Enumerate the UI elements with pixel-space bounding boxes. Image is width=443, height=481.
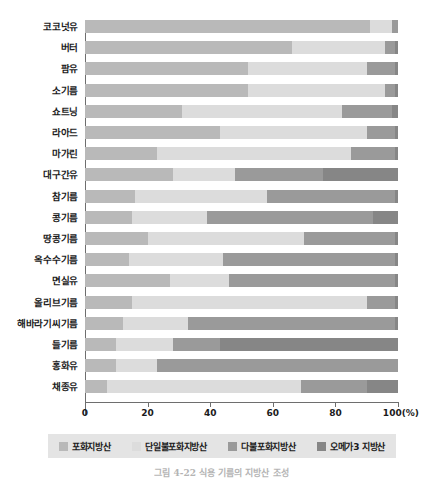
bar-segment-poly xyxy=(367,296,395,309)
bar-segment-sat xyxy=(85,147,157,160)
bar-segment-poly xyxy=(173,338,220,351)
bar-row xyxy=(85,380,398,393)
bar-row xyxy=(85,232,398,245)
legend-item: 오메가3 지방산 xyxy=(317,440,385,453)
bar-row xyxy=(85,62,398,75)
bar-segment-omega xyxy=(395,84,398,97)
bar-segment-sat xyxy=(85,274,170,287)
stacked-bar-chart: 코코넛유버터팜유소기름쇼트닝라아드마가린대구간유참기름콩기름땅콩기름옥수수기름면… xyxy=(0,0,443,481)
bar-category-label: 올리브기름 xyxy=(0,296,78,309)
bar-segment-mono xyxy=(132,296,367,309)
x-tick-mark xyxy=(398,403,399,407)
x-tick-mark xyxy=(210,403,211,407)
x-tick-label: 40 xyxy=(204,408,217,418)
bar-segment-mono xyxy=(248,84,386,97)
x-tick-label: 0 xyxy=(82,408,88,418)
bar-category-label: 땅콩기름 xyxy=(0,232,78,245)
bar-category-label: 마가린 xyxy=(0,147,78,160)
x-tick-mark xyxy=(335,403,336,407)
legend-swatch-icon xyxy=(228,442,237,451)
plot-area: 코코넛유버터팜유소기름쇼트닝라아드마가린대구간유참기름콩기름땅콩기름옥수수기름면… xyxy=(0,12,443,402)
bar-row xyxy=(85,20,398,33)
bar-segment-sat xyxy=(85,20,370,33)
bar-segment-sat xyxy=(85,232,148,245)
bar-category-label: 홍화유 xyxy=(0,359,78,372)
bar-segment-sat xyxy=(85,380,107,393)
bar-segment-sat xyxy=(85,211,132,224)
bar-row xyxy=(85,41,398,54)
x-axis-line xyxy=(85,402,399,403)
bar-segment-poly xyxy=(385,84,394,97)
bar-segment-mono xyxy=(129,253,223,266)
bar-segment-mono xyxy=(132,211,207,224)
bar-category-label: 코코넛유 xyxy=(0,20,78,33)
bar-segment-sat xyxy=(85,168,173,181)
bar-segment-mono xyxy=(173,168,236,181)
chart-legend: 포화지방산 단일불포화지방산 다불포화지방산 오메가3 지방산 xyxy=(48,434,396,458)
bar-segment-mono xyxy=(220,126,367,139)
bar-category-label: 면실유 xyxy=(0,274,78,287)
bar-category-label: 해바라기씨기름 xyxy=(0,317,78,330)
bar-category-label: 라아드 xyxy=(0,126,78,139)
bar-segment-poly xyxy=(157,359,398,372)
x-tick-mark xyxy=(273,403,274,407)
legend-item-label: 오메가3 지방산 xyxy=(330,440,385,453)
bar-segment-poly xyxy=(367,126,395,139)
bar-row xyxy=(85,211,398,224)
x-tick-mark xyxy=(85,403,86,407)
bar-segment-omega xyxy=(395,41,398,54)
bar-segment-sat xyxy=(85,359,116,372)
bar-segment-omega xyxy=(220,338,398,351)
bar-segment-sat xyxy=(85,126,220,139)
bar-segment-sat xyxy=(85,317,123,330)
bar-row xyxy=(85,105,398,118)
bar-segment-omega xyxy=(367,380,398,393)
bar-row xyxy=(85,338,398,351)
legend-item-label: 포화지방산 xyxy=(72,440,111,453)
bar-category-label: 팜유 xyxy=(0,62,78,75)
bar-segment-sat xyxy=(85,105,182,118)
bar-row xyxy=(85,84,398,97)
bar-segment-sat xyxy=(85,190,135,203)
bar-segment-sat xyxy=(85,253,129,266)
x-tick-label: 60 xyxy=(267,408,280,418)
bar-category-label: 소기름 xyxy=(0,84,78,97)
bar-category-label: 참기름 xyxy=(0,190,78,203)
bar-segment-omega xyxy=(392,105,398,118)
bar-segment-poly xyxy=(304,232,395,245)
bar-category-label: 버터 xyxy=(0,41,78,54)
bar-segment-mono xyxy=(135,190,266,203)
bar-row xyxy=(85,126,398,139)
bar-category-label: 쇼트닝 xyxy=(0,105,78,118)
bar-segment-poly xyxy=(367,62,395,75)
bar-row xyxy=(85,168,398,181)
bar-segment-mono xyxy=(292,41,386,54)
bar-segment-mono xyxy=(170,274,229,287)
bar-row xyxy=(85,190,398,203)
bar-segment-poly xyxy=(229,274,395,287)
bar-segment-mono xyxy=(123,317,189,330)
bar-segment-mono xyxy=(107,380,301,393)
bar-segment-poly xyxy=(223,253,395,266)
bar-segment-omega xyxy=(395,147,398,160)
bar-row xyxy=(85,296,398,309)
bar-segment-sat xyxy=(85,338,116,351)
figure-caption: 그림 4-22 식용 기름의 지방산 조성 xyxy=(0,466,443,481)
bar-segment-sat xyxy=(85,84,248,97)
bar-segment-mono xyxy=(116,359,157,372)
bar-segment-poly xyxy=(301,380,367,393)
x-tick-mark xyxy=(148,403,149,407)
bar-segment-sat xyxy=(85,62,248,75)
bar-segment-omega xyxy=(395,62,398,75)
bar-segment-poly xyxy=(392,20,398,33)
bar-row xyxy=(85,253,398,266)
bar-segment-mono xyxy=(248,62,367,75)
bar-segment-mono xyxy=(182,105,342,118)
x-tick-label: 100(%) xyxy=(383,408,419,418)
bar-segment-omega xyxy=(395,126,398,139)
bar-segment-poly xyxy=(267,190,395,203)
bar-row xyxy=(85,274,398,287)
bar-category-label: 들기름 xyxy=(0,338,78,351)
bar-segment-mono xyxy=(116,338,172,351)
legend-swatch-icon xyxy=(317,442,326,451)
